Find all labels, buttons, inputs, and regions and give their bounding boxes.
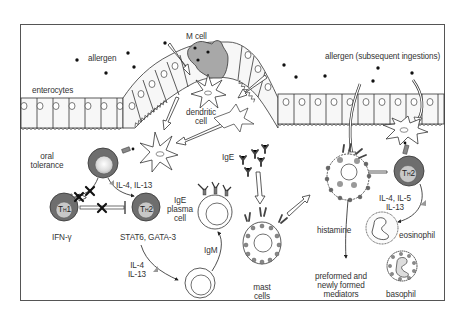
label-mast-line2: cells xyxy=(248,292,276,301)
label-basophil: basophil xyxy=(386,290,416,299)
label-il4-lower: IL-4 xyxy=(126,261,148,270)
label-ifn-gamma: IFN-γ xyxy=(52,233,72,242)
epithelium-left xyxy=(21,98,123,130)
label-dendritic-line1: dendritic xyxy=(183,108,219,117)
th1-num: 1 xyxy=(66,205,70,214)
label-ige-plasma-line3: cell xyxy=(163,214,197,223)
th2m-num: 2 xyxy=(410,169,414,178)
label-oral-line1: oral xyxy=(28,152,66,161)
allergy-pathway-diagram xyxy=(0,0,467,326)
label-mediators-line3: mediators xyxy=(301,290,381,299)
label-stat6-gata3: STAT6, GATA-3 xyxy=(120,233,176,242)
label-ige-plasma-cell: IgE plasma cell xyxy=(163,196,197,223)
label-il13-right: IL-13 xyxy=(372,203,418,212)
label-il4-il13-lower: IL-4 IL-13 xyxy=(126,261,148,279)
label-ige-plasma-line2: plasma xyxy=(163,205,197,214)
th2-num: 2 xyxy=(148,205,152,214)
eosinophil xyxy=(366,212,398,244)
label-enterocytes: enterocytes xyxy=(32,86,73,95)
label-m-cell: M cell xyxy=(186,32,207,41)
label-mediators-line2: newly formed xyxy=(301,281,381,290)
label-ige-plasma-line1: IgE xyxy=(163,196,197,205)
label-il13-lower: IL-13 xyxy=(126,270,148,279)
label-il4-il5: IL-4, IL-5 xyxy=(372,194,418,203)
label-mast-cells: mast cells xyxy=(248,283,276,301)
label-oral-line2: tolerance xyxy=(28,161,66,170)
label-mast-line1: mast xyxy=(248,283,276,292)
label-dendritic-cell: dendritic cell xyxy=(183,108,219,126)
label-th2: TH2 xyxy=(140,205,153,215)
label-il4-il5-il13: IL-4, IL-5 IL-13 xyxy=(372,194,418,212)
label-th1: TH1 xyxy=(58,205,71,215)
label-mediators-line1: preformed and xyxy=(301,272,381,281)
basophil xyxy=(387,251,417,281)
label-allergen-subsequent: allergen (subsequent ingestions) xyxy=(325,52,440,61)
label-igm: IgM xyxy=(204,246,217,255)
label-allergen: allergen xyxy=(88,54,116,63)
label-th2-memory: TH2 xyxy=(402,169,415,179)
label-oral-tolerance: oral tolerance xyxy=(28,152,66,170)
label-il4-il13-top: IL-4, IL-13 xyxy=(116,181,152,190)
label-mediators: preformed and newly formed mediators xyxy=(301,272,381,299)
label-dendritic-line2: cell xyxy=(183,117,219,126)
naive-t-cell xyxy=(88,148,118,178)
label-eosinophil: eosinophil xyxy=(399,231,435,240)
label-ige: IgE xyxy=(222,153,234,162)
b-cell-igm xyxy=(185,268,215,298)
label-histamine: histamine xyxy=(317,226,351,235)
